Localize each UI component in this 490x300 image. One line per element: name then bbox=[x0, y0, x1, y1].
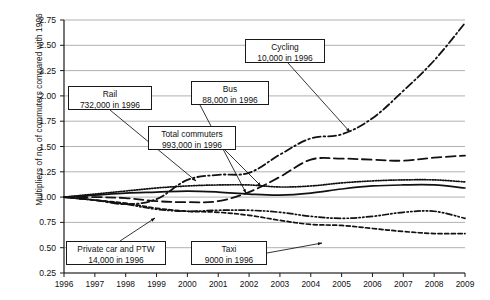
annotation-subtitle-car: 14,000 in 1996 bbox=[71, 255, 161, 266]
y-axis-tick-label: 2.25 bbox=[22, 66, 56, 76]
annotation-callout-bus: Bus88,000 in 1996 bbox=[191, 81, 269, 105]
annotation-callout-cycling: Cycling10,000 in 1996 bbox=[245, 39, 325, 63]
annotation-title-cycling: Cycling bbox=[250, 42, 320, 53]
annotation-subtitle-cycling: 10,000 in 1996 bbox=[250, 53, 320, 64]
annotation-subtitle-taxi: 9000 in 1996 bbox=[196, 255, 262, 266]
annotation-subtitle-total: 993,000 in 1996 bbox=[153, 140, 231, 151]
annotation-callout-total: Total commuters993,000 in 1996 bbox=[148, 126, 236, 150]
annotation-title-total: Total commuters bbox=[153, 129, 231, 140]
annotation-subtitle-rail: 732,000 in 1996 bbox=[73, 100, 147, 111]
y-axis-tick-label: 1.50 bbox=[22, 142, 56, 152]
annotation-callout-taxi: Taxi9000 in 1996 bbox=[191, 241, 267, 265]
annotation-title-bus: Bus bbox=[196, 84, 264, 95]
annotation-title-car: Private car and PTW bbox=[71, 244, 161, 255]
series-line-private-car-and-ptw bbox=[64, 197, 465, 218]
annotation-title-taxi: Taxi bbox=[196, 244, 262, 255]
series-line-taxi bbox=[64, 197, 465, 234]
y-axis-tick-label: 1.00 bbox=[22, 192, 56, 202]
y-axis-tick-label: 0.50 bbox=[22, 243, 56, 253]
annotation-subtitle-bus: 88,000 in 1996 bbox=[196, 95, 264, 106]
y-axis-tick-label: 1.75 bbox=[22, 116, 56, 126]
y-axis-tick-label: 0.25 bbox=[22, 268, 56, 278]
annotation-callout-rail: Rail732,000 in 1996 bbox=[68, 86, 152, 110]
annotation-leader-line-total bbox=[225, 150, 261, 186]
annotation-leader-line-car bbox=[120, 218, 155, 241]
x-axis-tick-label: 2009 bbox=[445, 279, 485, 289]
y-axis-tick-label: 2.00 bbox=[22, 91, 56, 101]
annotation-leader-line-cycling bbox=[288, 63, 350, 132]
annotation-title-rail: Rail bbox=[73, 89, 147, 100]
y-axis-tick-label: 2.75 bbox=[22, 15, 56, 25]
y-axis-tick-label: 2.50 bbox=[22, 40, 56, 50]
annotation-callout-car: Private car and PTW14,000 in 1996 bbox=[66, 241, 166, 265]
y-axis-tick-label: 1.25 bbox=[22, 167, 56, 177]
chart-container: Multipliers of no. of commuters compared… bbox=[0, 0, 490, 300]
y-axis-tick-label: 0.75 bbox=[22, 217, 56, 227]
